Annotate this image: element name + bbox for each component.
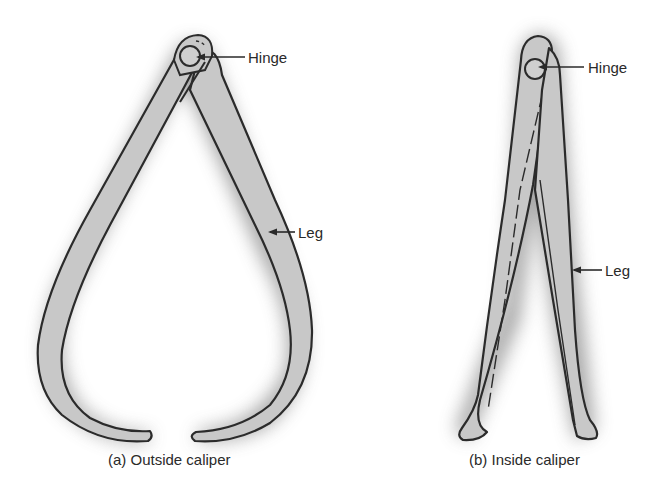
outside-caliper [38, 35, 312, 442]
outside-caliper-left-leg [38, 45, 205, 442]
inside-caliper-caption: (b) Inside caliper [469, 452, 580, 467]
inside-caliper-left-leg [459, 36, 552, 440]
inside-hinge-label: Hinge [588, 60, 627, 75]
outside-caliper-hinge-pin [180, 46, 200, 66]
inside-caliper-hinge-pin [525, 59, 545, 79]
inside-caliper [455, 34, 602, 440]
outside-leg-label: Leg [298, 225, 323, 240]
outside-caliper-right-leg [190, 50, 312, 442]
outside-hinge-label: Hinge [248, 50, 287, 65]
inside-leg-label: Leg [605, 263, 630, 278]
caliper-diagram [0, 0, 664, 491]
outside-caliper-caption: (a) Outside caliper [108, 452, 231, 467]
